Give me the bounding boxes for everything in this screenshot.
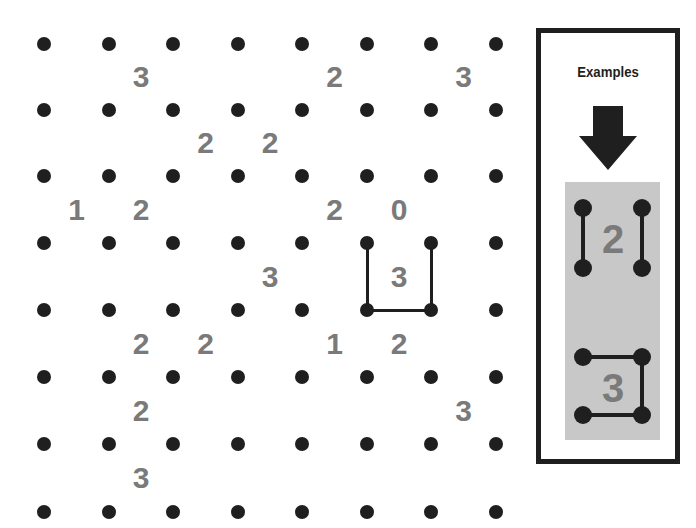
cell-clue: 2 [133, 195, 150, 225]
grid-dot[interactable] [424, 303, 438, 317]
grid-dot[interactable] [102, 303, 116, 317]
grid-dot[interactable] [489, 169, 503, 183]
example-1-clue: 2 [602, 219, 624, 259]
grid-dot[interactable] [424, 236, 438, 250]
grid-dot[interactable] [102, 505, 116, 519]
cell-clue: 3 [455, 62, 472, 92]
example-2-dot [633, 348, 651, 366]
cell-clue: 2 [197, 128, 214, 158]
grid-dot[interactable] [231, 437, 245, 451]
cell-clue: 1 [68, 195, 85, 225]
grid-dot[interactable] [489, 236, 503, 250]
grid-dot[interactable] [360, 37, 374, 51]
cell-clue: 3 [133, 62, 150, 92]
grid-dot[interactable] [102, 103, 116, 117]
grid-dot[interactable] [295, 370, 309, 384]
grid-dot[interactable] [489, 37, 503, 51]
grid-dot[interactable] [489, 370, 503, 384]
grid-dot[interactable] [231, 236, 245, 250]
drawn-line-segment[interactable] [367, 309, 431, 312]
grid-dot[interactable] [295, 236, 309, 250]
example-2-dot [574, 348, 592, 366]
cell-clue: 2 [262, 128, 279, 158]
grid-dot[interactable] [37, 303, 51, 317]
cell-clue: 3 [455, 396, 472, 426]
example-1-dot [633, 259, 651, 277]
grid-dot[interactable] [231, 103, 245, 117]
grid-dot[interactable] [102, 169, 116, 183]
drawn-line-segment[interactable] [430, 243, 433, 310]
grid-dot[interactable] [231, 37, 245, 51]
grid-dot[interactable] [166, 236, 180, 250]
grid-dot[interactable] [166, 505, 180, 519]
example-2-clue: 3 [602, 368, 624, 408]
example-1-dot [633, 199, 651, 217]
grid-dot[interactable] [360, 370, 374, 384]
grid-dot[interactable] [231, 370, 245, 384]
cell-clue: 0 [391, 195, 408, 225]
grid-dot[interactable] [489, 437, 503, 451]
grid-dot[interactable] [489, 505, 503, 519]
grid-dot[interactable] [37, 505, 51, 519]
examples-title: Examples [549, 63, 667, 80]
grid-dot[interactable] [231, 303, 245, 317]
grid-dot[interactable] [231, 505, 245, 519]
example-1-dot [574, 199, 592, 217]
cell-clue: 3 [262, 262, 279, 292]
grid-dot[interactable] [166, 437, 180, 451]
cell-clue: 3 [391, 262, 408, 292]
grid-dot[interactable] [424, 505, 438, 519]
grid-dot[interactable] [37, 37, 51, 51]
cell-clue: 1 [326, 329, 343, 359]
cell-clue: 2 [133, 396, 150, 426]
example-2-dot [633, 406, 651, 424]
grid-dot[interactable] [166, 169, 180, 183]
cell-clue: 3 [133, 463, 150, 493]
grid-dot[interactable] [37, 370, 51, 384]
grid-dot[interactable] [424, 37, 438, 51]
cell-clue: 2 [326, 195, 343, 225]
cell-clue: 2 [133, 329, 150, 359]
drawn-line-segment[interactable] [366, 243, 369, 310]
grid-dot[interactable] [360, 236, 374, 250]
grid-dot[interactable] [360, 505, 374, 519]
grid-dot[interactable] [231, 169, 245, 183]
grid-dot[interactable] [489, 303, 503, 317]
grid-dot[interactable] [102, 37, 116, 51]
grid-dot[interactable] [424, 370, 438, 384]
grid-dot[interactable] [37, 169, 51, 183]
grid-dot[interactable] [102, 437, 116, 451]
grid-dot[interactable] [489, 103, 503, 117]
cell-clue: 2 [197, 329, 214, 359]
grid-dot[interactable] [424, 169, 438, 183]
grid-dot[interactable] [295, 169, 309, 183]
grid-dot[interactable] [360, 303, 374, 317]
grid-dot[interactable] [295, 437, 309, 451]
grid-dot[interactable] [166, 37, 180, 51]
cell-clue: 2 [391, 329, 408, 359]
grid-dot[interactable] [166, 103, 180, 117]
examples-gray-panel: 2 3 [565, 182, 660, 440]
grid-dot[interactable] [166, 370, 180, 384]
down-arrow-icon [579, 106, 637, 170]
cell-clue: 2 [326, 62, 343, 92]
grid-dot[interactable] [37, 437, 51, 451]
grid-dot[interactable] [102, 370, 116, 384]
grid-dot[interactable] [37, 236, 51, 250]
puzzle-board: 323221220332212233 [0, 0, 530, 528]
example-2-dot [574, 406, 592, 424]
grid-dot[interactable] [37, 103, 51, 117]
examples-panel: Examples 2 3 [536, 28, 680, 464]
grid-dot[interactable] [166, 303, 180, 317]
grid-dot[interactable] [102, 236, 116, 250]
grid-dot[interactable] [360, 103, 374, 117]
grid-dot[interactable] [360, 437, 374, 451]
grid-dot[interactable] [360, 169, 374, 183]
grid-dot[interactable] [295, 505, 309, 519]
example-1-dot [574, 259, 592, 277]
grid-dot[interactable] [295, 303, 309, 317]
grid-dot[interactable] [424, 103, 438, 117]
grid-dot[interactable] [424, 437, 438, 451]
grid-dot[interactable] [295, 37, 309, 51]
grid-dot[interactable] [295, 103, 309, 117]
